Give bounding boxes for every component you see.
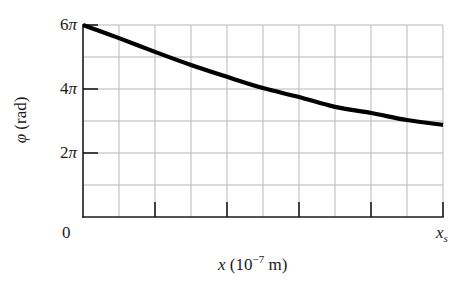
y-axis-unit: (rad): [11, 97, 30, 134]
x-axis-label: x (10−7 m): [218, 256, 287, 273]
x-tick-subscript: s: [444, 232, 448, 244]
x-tick-variable: x: [436, 223, 444, 242]
y-axis-label: φ (rad): [12, 97, 29, 144]
pi-symbol: π: [68, 15, 77, 34]
pi-symbol: π: [68, 143, 77, 162]
x-tick-label-xs: xs: [436, 224, 448, 241]
x-axis-unit-close: m): [264, 255, 287, 274]
y-tick-label-4pi: 4π: [37, 80, 77, 97]
x-axis-unit-open: (10: [226, 255, 253, 274]
y-tick-label-2pi: 2π: [37, 144, 77, 161]
x-tick-label-origin: 0: [62, 224, 71, 241]
pi-symbol: π: [68, 79, 77, 98]
y-tick-label-6pi: 6π: [37, 16, 77, 33]
grid-lines: [83, 25, 443, 217]
x-axis-exponent: −7: [252, 253, 264, 265]
x-axis-variable: x: [218, 255, 226, 274]
y-axis-variable: φ: [11, 134, 30, 143]
